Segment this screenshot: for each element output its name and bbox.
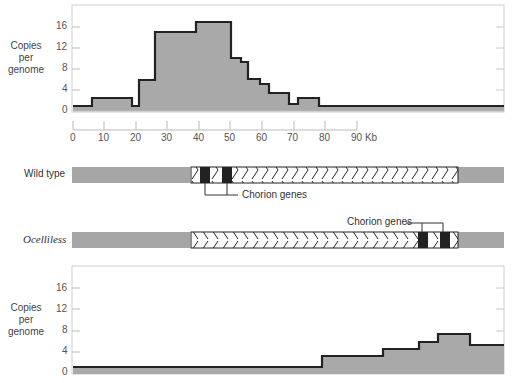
ytick: 4 xyxy=(62,345,68,356)
chorion-gene-block xyxy=(222,167,232,183)
chorion-gene-block xyxy=(418,232,428,248)
ylabel-line: Copies xyxy=(2,302,50,314)
chorion-gene-block xyxy=(200,167,210,183)
wild-type-label: Wild type xyxy=(24,168,65,179)
bottom-chart-plot xyxy=(72,266,504,374)
bottom-y-axis-label: Copies per genome xyxy=(2,302,50,338)
ylabel-line: per xyxy=(2,314,50,326)
wild-type-chorion-annotation: Chorion genes xyxy=(242,189,307,200)
ytick: 16 xyxy=(56,282,67,293)
ocelliless-label: Ocelliless xyxy=(23,233,66,245)
ylabel-line: genome xyxy=(2,326,50,338)
ytick: 8 xyxy=(62,324,68,335)
ocelliless-map xyxy=(72,223,504,248)
chorion-gene-block xyxy=(440,232,450,248)
ytick: 0 xyxy=(62,366,68,377)
ocelliless-chorion-annotation: Chorion genes xyxy=(347,216,412,227)
top-chart-plot xyxy=(72,5,504,130)
ytick: 12 xyxy=(56,303,67,314)
